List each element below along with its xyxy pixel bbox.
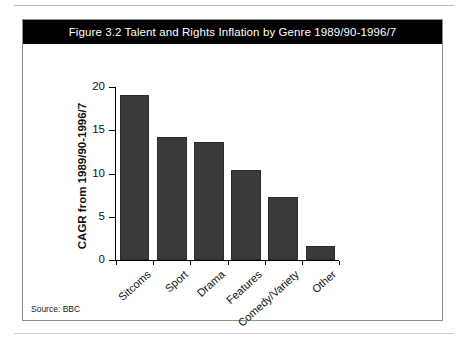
y-tick-label: 5: [79, 210, 105, 222]
y-tick-mark: [109, 130, 116, 131]
y-tick-label: 20: [79, 80, 105, 92]
bar: [120, 95, 150, 260]
y-tick-mark: [109, 174, 116, 175]
y-tick-label-wrap: 10: [75, 174, 105, 175]
y-tick-label-wrap: 20: [75, 87, 105, 88]
y-tick-label-wrap: 5: [75, 217, 105, 218]
plot-area: CAGR from 1989/90-1996/7 05101520 Sitcom…: [23, 44, 442, 321]
bar: [157, 137, 187, 260]
source-note: Source: BBC: [31, 304, 80, 314]
y-tick-label: 10: [79, 167, 105, 179]
y-tick-mark: [109, 217, 116, 218]
page-bottom-rule: [14, 333, 454, 334]
figure-title: Figure 3.2 Talent and Rights Inflation b…: [23, 20, 442, 44]
bar-series: [116, 87, 339, 260]
y-tick-label-wrap: 15: [75, 130, 105, 131]
y-tick-mark: [109, 87, 116, 88]
x-tick-mark: [116, 261, 117, 265]
page-top-rule: [14, 5, 454, 6]
bar: [231, 170, 261, 260]
bar: [194, 142, 224, 261]
y-tick-label: 0: [79, 253, 105, 265]
y-tick-label: 15: [79, 123, 105, 135]
y-tick-mark: [109, 260, 116, 261]
figure-container: Figure 3.2 Talent and Rights Inflation b…: [22, 19, 443, 321]
y-tick-label-wrap: 0: [75, 260, 105, 261]
